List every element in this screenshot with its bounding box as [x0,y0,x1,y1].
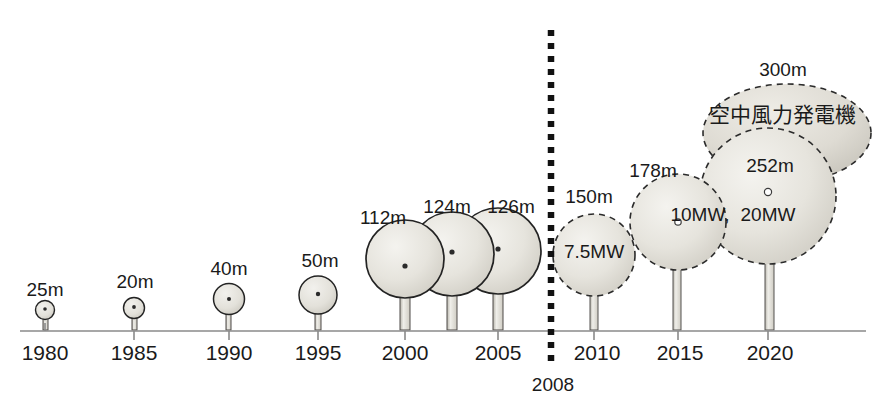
label-25m: 25m [27,279,64,300]
label-power-20mw: 20MW [741,204,796,225]
rotor-hub-2000 [402,263,407,268]
rotor-hub-2020 [764,188,771,195]
label-power-7-5mw: 7.5MW [564,241,624,262]
label-40m: 40m [211,258,248,279]
axis-label-2015: 2015 [657,341,704,364]
label-124m: 124m [423,196,471,217]
rotor-circle-112m [366,220,444,298]
rotor-hub-2005 [495,246,500,251]
rotor-hub-1985 [132,305,136,309]
label-20m: 20m [117,271,154,292]
label-50m: 50m [302,250,339,271]
divider-label-2008: 2008 [532,374,574,395]
axis-label-2000: 2000 [382,341,429,364]
axis-label-2005: 2005 [475,341,522,364]
turbine-2000-group [366,220,444,330]
axis-label-2020: 2020 [747,341,794,364]
label-252m: 252m [746,155,794,176]
axis-label-1985: 1985 [111,341,158,364]
axis-label-1980: 1980 [22,341,69,364]
rotor-hub-1990 [227,297,231,301]
turbine-1985-group [124,298,145,331]
label-power-10mw: 10MW, [670,204,729,225]
label-150m: 150m [565,186,613,207]
label-126m: 126m [487,196,535,217]
axis-label-2010: 2010 [574,341,621,364]
turbine-1995-group [299,276,337,330]
label-airborne-wind-turbine: 空中風力発電機 [709,103,856,127]
timeline-axis [20,323,866,340]
axis-label-1995: 1995 [295,341,342,364]
rotor-hub-2003 [449,249,454,254]
turbine-1990-group [214,284,245,331]
axis-label-1990: 1990 [206,341,253,364]
label-300m: 300m [759,59,807,80]
rotor-hub-1995 [316,292,320,296]
wind-turbine-size-timeline-figure: 25m 20m 40m 50m 112m 124m 126m 150m 178m… [0,0,882,417]
rotor-hub-1980 [43,307,47,311]
label-112m: 112m [360,207,406,228]
label-178m: 178m [629,160,677,181]
turbine-2010-group [553,214,635,330]
figure-canvas: 25m 20m 40m 50m 112m 124m 126m 150m 178m… [0,0,882,417]
turbine-2015-group [630,174,726,330]
